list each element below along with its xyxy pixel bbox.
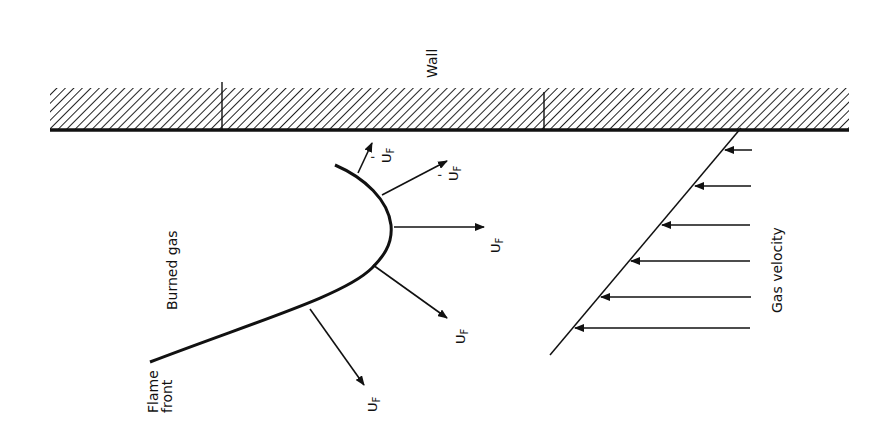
burned-gas-label: Burned gas [164, 230, 180, 310]
wall [50, 82, 849, 130]
svg-text:': ' [436, 174, 450, 177]
flame-front-label: Flame front [145, 370, 175, 413]
gas-velocity-profile [550, 128, 752, 355]
velocity-profile-line [550, 128, 741, 355]
svg-text:front: front [159, 379, 175, 413]
uf-label-lower-2: UF [365, 396, 382, 412]
uf-label-normal: UF [488, 237, 505, 253]
svg-text:UF: UF [488, 237, 505, 253]
svg-text:UF: UF [379, 147, 396, 163]
wall-hatching [50, 88, 849, 130]
uf-label-lower-1: UF [453, 328, 470, 344]
uf-vector-lower-1 [373, 265, 447, 318]
svg-text:UF: UF [453, 328, 470, 344]
flame-front-curve [150, 165, 391, 362]
wall-label: Wall [424, 49, 440, 78]
gas-velocity-label: Gas velocity [769, 227, 785, 313]
flame-wall-diagram: Wall UF ' UF ' UF UF UF Burned gas Flame… [0, 0, 887, 427]
svg-text:UF: UF [446, 165, 463, 181]
uf-vector-lower-2 [310, 309, 364, 385]
uf-prime-vector-2 [382, 161, 447, 195]
svg-text:': ' [369, 156, 383, 159]
uf-prime-label-1: UF ' [369, 147, 396, 163]
svg-text:UF: UF [365, 396, 382, 412]
diagram-canvas: Wall UF ' UF ' UF UF UF Burned gas Flame… [0, 0, 887, 427]
uf-prime-label-2: UF ' [436, 165, 463, 181]
